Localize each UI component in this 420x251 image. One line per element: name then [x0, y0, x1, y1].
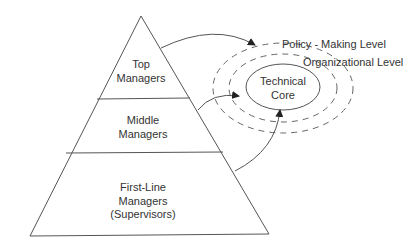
level-label-line: Middle	[127, 114, 159, 126]
level-first-line-managers: First-Line Managers (Supervisors)	[110, 181, 175, 220]
core-label-line: Core	[271, 89, 295, 101]
divider-middle-bottom	[66, 152, 223, 153]
management-levels-diagram: Top Managers Middle Managers First-Line …	[0, 0, 420, 251]
policy-making-level-label: Policy - Making Level	[282, 38, 386, 50]
level-label-line: Managers	[119, 195, 168, 207]
arrow-top-to-policy	[161, 34, 255, 48]
technical-core-ellipse	[246, 64, 320, 110]
level-label-line: First-Line	[120, 181, 166, 193]
organizational-level-label: Organizational Level	[303, 56, 403, 68]
level-label-line: Managers	[119, 128, 168, 140]
pyramid: Top Managers Middle Managers First-Line …	[30, 16, 269, 236]
level-label-line: Managers	[117, 72, 166, 84]
level-top-managers: Top Managers	[117, 58, 166, 84]
level-label-line: (Supervisors)	[110, 208, 175, 220]
divider-top-middle	[97, 98, 190, 99]
arrow-first-line-to-core	[235, 110, 280, 171]
arrow-middle-to-organizational	[198, 95, 239, 110]
core-label-line: Technical	[260, 75, 306, 87]
level-middle-managers: Middle Managers	[119, 114, 168, 140]
environment-rings: Technical Core Policy - Making Level Org…	[213, 38, 403, 133]
level-label-line: Top	[132, 58, 150, 70]
